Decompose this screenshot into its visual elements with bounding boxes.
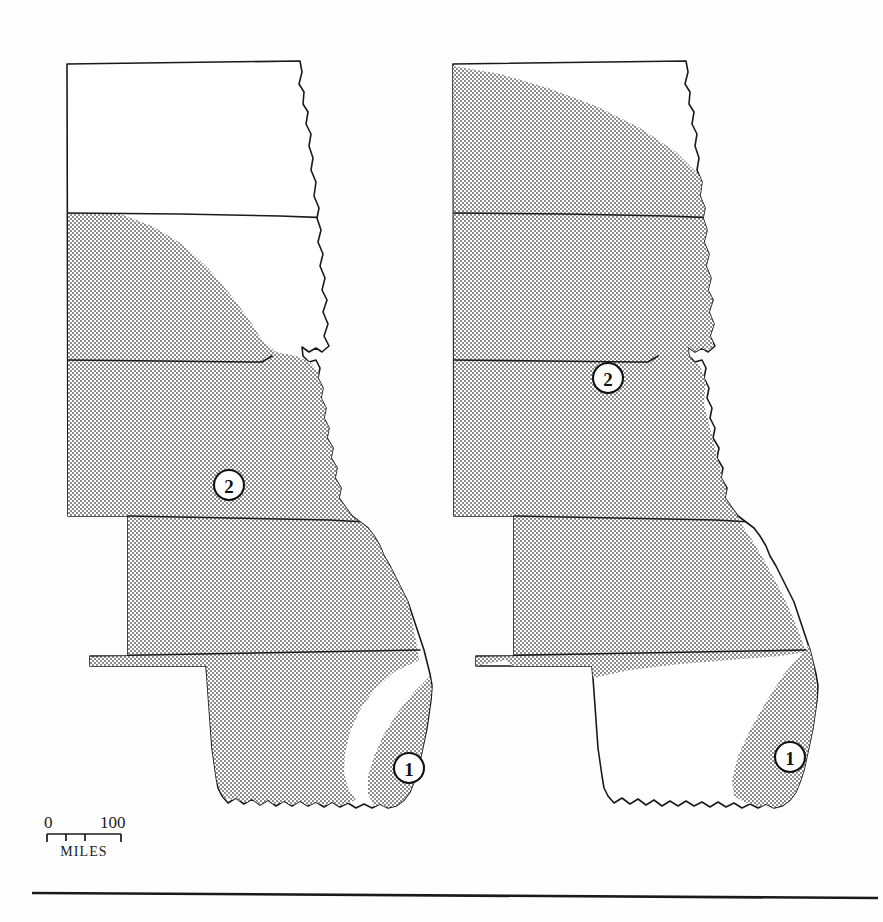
scale-end-label: 100 <box>100 813 126 832</box>
bottom-divider <box>32 893 878 898</box>
right-map-callout-2: 2 <box>593 363 623 393</box>
scale-bar: 0 100 MILES <box>44 813 126 859</box>
left-map-callout-1: 1 <box>394 753 424 783</box>
figure-container: 2 1 2 <box>0 0 883 922</box>
callout-label: 1 <box>404 759 414 780</box>
right-map-callout-1: 1 <box>775 742 805 772</box>
map-figure-svg: 2 1 2 <box>0 0 883 922</box>
callout-label: 1 <box>785 748 795 769</box>
scale-start-label: 0 <box>44 813 53 832</box>
left-map-callout-2: 2 <box>214 470 244 500</box>
scale-unit-label: MILES <box>60 844 108 859</box>
callout-label: 2 <box>603 369 613 390</box>
callout-label: 2 <box>224 476 234 497</box>
